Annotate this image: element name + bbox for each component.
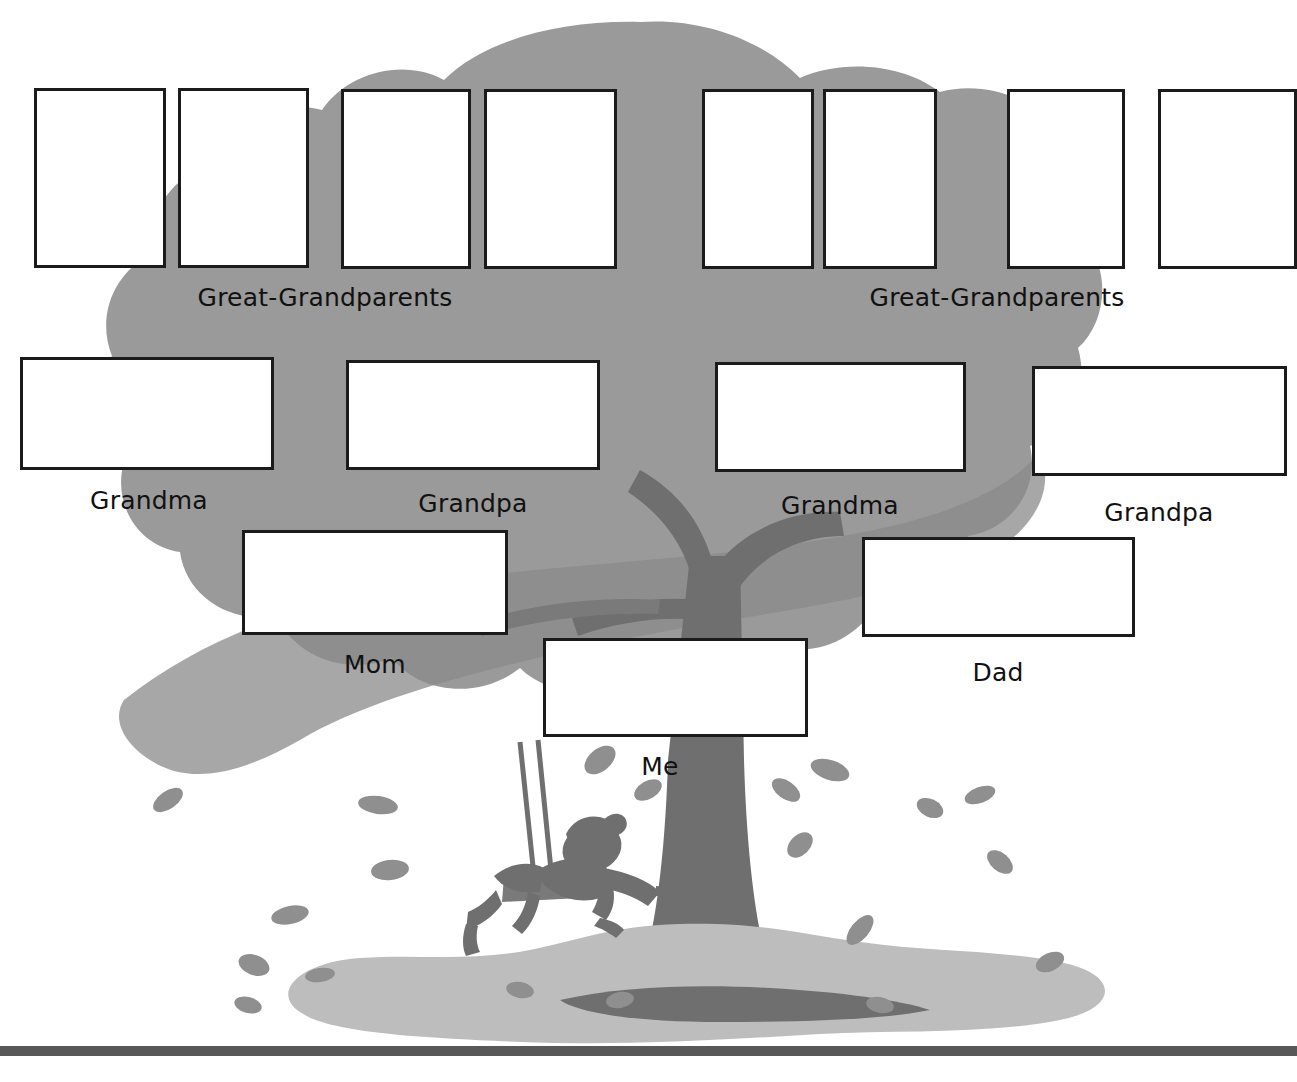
tree-branch-icon	[716, 512, 844, 592]
great-grandparent-box-8[interactable]	[1158, 89, 1297, 269]
great-grandparents-label-right: Great-Grandparents	[870, 283, 1125, 313]
grandpa-label-maternal: Grandpa	[418, 489, 527, 519]
me-label: Me	[641, 752, 678, 782]
grandma-box-paternal[interactable]	[715, 362, 966, 472]
great-grandparent-box-7[interactable]	[1007, 89, 1125, 269]
rope-swing-icon	[520, 740, 552, 880]
great-grandparents-label-left: Great-Grandparents	[198, 283, 453, 313]
dad-label: Dad	[972, 658, 1023, 688]
mom-label: Mom	[344, 650, 406, 680]
horizontal-rule-icon	[0, 1046, 1297, 1056]
dad-box[interactable]	[862, 537, 1135, 637]
great-grandparent-box-5[interactable]	[702, 89, 814, 269]
me-box[interactable]	[543, 638, 808, 737]
great-grandparent-box-2[interactable]	[178, 88, 309, 268]
mom-box[interactable]	[242, 530, 508, 635]
falling-leaf-icon	[149, 740, 1067, 1016]
great-grandparent-box-1[interactable]	[34, 88, 166, 268]
tree-branch-icon	[628, 470, 712, 586]
grandpa-box-maternal[interactable]	[346, 360, 600, 470]
child-on-swing-icon	[463, 814, 678, 956]
family-tree-worksheet: Great-Grandparents Great-Grandparents Gr…	[0, 0, 1297, 1082]
great-grandparent-box-4[interactable]	[484, 89, 617, 269]
grandma-label-maternal: Grandma	[90, 486, 208, 516]
great-grandparent-box-6[interactable]	[823, 89, 937, 269]
great-grandparent-box-3[interactable]	[341, 89, 471, 269]
grandpa-label-paternal: Grandpa	[1104, 498, 1213, 528]
grandma-box-maternal[interactable]	[20, 357, 274, 470]
ground-patch-icon	[288, 924, 1105, 1044]
rope-swing-icon	[502, 872, 580, 902]
tree-trunk-icon	[520, 556, 892, 998]
grandma-label-paternal: Grandma	[781, 491, 899, 521]
grandpa-box-paternal[interactable]	[1032, 366, 1287, 476]
trunk-shadow-icon	[560, 986, 930, 1022]
tree-branch-icon	[572, 599, 700, 636]
